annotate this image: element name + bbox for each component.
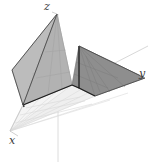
axis-label-z: z (44, 1, 50, 12)
figure-3d-plot: z y x (0, 0, 153, 163)
axis-label-x: x (9, 135, 15, 146)
axis-label-y: y (139, 68, 145, 79)
plot-canvas (0, 0, 153, 163)
